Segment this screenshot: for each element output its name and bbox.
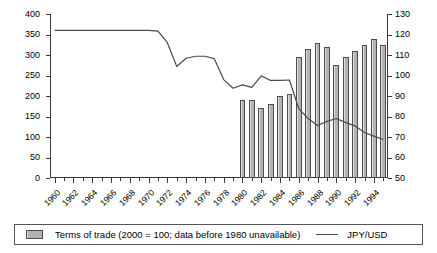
x-axis-tick bbox=[224, 178, 225, 183]
x-axis-tick bbox=[318, 178, 319, 183]
x-axis-tick bbox=[261, 178, 262, 183]
right-axis-tick-label: 100 bbox=[395, 71, 421, 80]
right-axis-tick bbox=[388, 35, 392, 36]
left-axis-tick-label: 400 bbox=[14, 10, 40, 19]
left-axis-tick bbox=[46, 178, 50, 179]
right-axis-tick bbox=[388, 137, 392, 138]
right-axis-tick-label: 70 bbox=[395, 133, 421, 142]
x-axis-tick bbox=[177, 178, 178, 181]
right-axis-tick bbox=[388, 158, 392, 159]
right-axis-tick-label: 130 bbox=[395, 10, 421, 19]
right-axis-tick bbox=[388, 178, 392, 179]
x-axis-tick bbox=[355, 178, 356, 183]
plot-area bbox=[50, 14, 388, 178]
left-axis-tick-label: 300 bbox=[14, 51, 40, 60]
left-axis-tick-label: 250 bbox=[14, 71, 40, 80]
left-axis-tick-label: 50 bbox=[14, 153, 40, 162]
legend-line-swatch bbox=[316, 234, 338, 235]
x-axis-tick bbox=[130, 178, 131, 183]
x-axis-tick bbox=[167, 178, 168, 183]
x-axis-tick bbox=[111, 178, 112, 183]
legend-bar-label: Terms of trade (2000 = 100; data before … bbox=[55, 229, 300, 240]
left-axis-tick-label: 350 bbox=[14, 30, 40, 39]
x-axis-tick bbox=[271, 178, 272, 181]
right-axis-tick-label: 90 bbox=[395, 92, 421, 101]
x-axis-tick bbox=[280, 178, 281, 183]
x-axis-tick bbox=[73, 178, 74, 183]
x-axis-tick bbox=[158, 178, 159, 181]
x-axis-tick bbox=[289, 178, 290, 181]
x-axis-tick bbox=[214, 178, 215, 181]
x-axis-tick bbox=[139, 178, 140, 181]
x-axis-tick bbox=[64, 178, 65, 181]
x-axis-tick bbox=[55, 178, 56, 183]
right-axis-tick bbox=[388, 55, 392, 56]
right-axis-tick-label: 110 bbox=[395, 51, 421, 60]
right-axis-tick-label: 60 bbox=[395, 153, 421, 162]
right-axis-tick bbox=[388, 96, 392, 97]
x-axis-tick bbox=[346, 178, 347, 181]
left-axis-tick-label: 150 bbox=[14, 112, 40, 121]
x-axis-tick bbox=[120, 178, 121, 181]
right-axis-tick-label: 120 bbox=[395, 30, 421, 39]
right-axis-tick-label: 80 bbox=[395, 112, 421, 121]
x-axis-tick bbox=[205, 178, 206, 183]
x-axis-tick bbox=[383, 178, 384, 181]
left-axis-tick-label: 200 bbox=[14, 92, 40, 101]
right-axis-tick bbox=[388, 14, 392, 15]
x-axis-tick bbox=[92, 178, 93, 183]
x-axis-tick bbox=[233, 178, 234, 181]
left-axis-tick-label: 0 bbox=[14, 174, 40, 183]
x-axis-tick bbox=[336, 178, 337, 183]
chart-container: 050100150200250300350400 506070809010011… bbox=[0, 0, 437, 253]
x-axis-tick bbox=[83, 178, 84, 181]
x-axis-tick bbox=[308, 178, 309, 181]
right-axis-tick bbox=[388, 76, 392, 77]
x-axis-tick bbox=[252, 178, 253, 181]
x-axis-tick bbox=[196, 178, 197, 181]
x-axis-tick bbox=[327, 178, 328, 181]
legend-line-label: JPY/USD bbox=[347, 229, 387, 240]
x-axis-tick bbox=[365, 178, 366, 181]
line-series-jpy-usd bbox=[50, 14, 388, 178]
right-axis-tick bbox=[388, 117, 392, 118]
right-axis-tick-label: 50 bbox=[395, 174, 421, 183]
left-axis-tick-label: 100 bbox=[14, 133, 40, 142]
x-axis-tick bbox=[242, 178, 243, 183]
x-axis-tick bbox=[149, 178, 150, 183]
x-axis-tick bbox=[374, 178, 375, 183]
legend-bar-swatch bbox=[26, 230, 43, 239]
x-axis-tick bbox=[299, 178, 300, 183]
x-axis-tick bbox=[186, 178, 187, 183]
line-path bbox=[55, 30, 384, 139]
x-axis-tick bbox=[102, 178, 103, 181]
chart-legend: Terms of trade (2000 = 100; data before … bbox=[14, 224, 423, 245]
